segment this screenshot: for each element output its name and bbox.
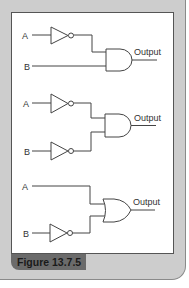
input-label-b: B [23,229,29,239]
input-label-a: A [22,31,28,41]
output-label: Output [134,47,162,57]
and-gate-icon [106,49,132,71]
output-label: Output [134,113,162,123]
not-a-output-wire [74,103,106,118]
figure-caption: Figure 13.7.5 [11,254,86,270]
not-gate-icon [51,27,68,44]
input-a-wire [32,186,105,204]
not-gate-icon [50,224,67,242]
input-label-b: B [24,147,30,157]
inverter-bubble-icon [68,231,73,236]
inverter-bubble-icon [69,101,74,106]
circuit-3 [32,186,155,242]
not-output-wire [74,35,107,52]
input-label-b: B [24,62,30,72]
circuit-2 [32,94,156,160]
not-b-output-wire [74,132,106,151]
inverter-bubble-icon [69,33,74,38]
inverter-bubble-icon [69,149,74,154]
logic-diagram: A B Output A B Output A B Output [0,0,189,288]
input-label-a: A [23,99,29,109]
and-gate-icon [105,114,131,137]
input-label-a: A [22,182,28,192]
or-gate-icon [103,199,131,222]
not-gate-icon [51,142,68,160]
output-label: Output [133,197,161,207]
not-b-output-wire [73,216,106,233]
not-gate-icon [51,94,68,113]
